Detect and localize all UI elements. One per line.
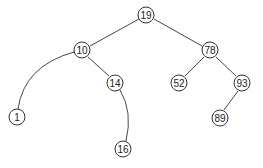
tree-node-93: 93 (234, 75, 250, 91)
tree-canvas: 19107814529318916 (0, 0, 263, 168)
tree-node-52: 52 (171, 75, 187, 91)
node-label: 16 (117, 144, 129, 155)
node-label: 14 (109, 78, 121, 89)
tree-node-1: 1 (9, 109, 25, 125)
edge-78-93 (216, 57, 236, 76)
edge-93-89 (224, 91, 238, 110)
tree-node-19: 19 (138, 7, 154, 23)
node-label: 52 (173, 78, 185, 89)
tree-node-89: 89 (212, 110, 228, 126)
tree-node-10: 10 (74, 42, 90, 58)
tree-node-14: 14 (107, 75, 123, 91)
node-label: 19 (140, 10, 152, 21)
edges (18, 19, 238, 141)
node-label: 1 (14, 112, 20, 123)
edge-19-78 (154, 19, 202, 46)
edge-78-52 (185, 57, 204, 76)
node-label: 10 (76, 45, 88, 56)
edge-10-1 (18, 52, 74, 109)
edge-14-16 (120, 90, 128, 141)
node-label: 78 (204, 45, 216, 56)
tree-node-16: 16 (115, 141, 131, 157)
edge-19-10 (90, 19, 139, 46)
tree-diagram: 19107814529318916 (0, 0, 263, 168)
edge-10-14 (88, 57, 109, 76)
nodes: 19107814529318916 (9, 7, 250, 157)
tree-node-78: 78 (202, 42, 218, 58)
node-label: 89 (214, 113, 226, 124)
node-label: 93 (236, 78, 248, 89)
